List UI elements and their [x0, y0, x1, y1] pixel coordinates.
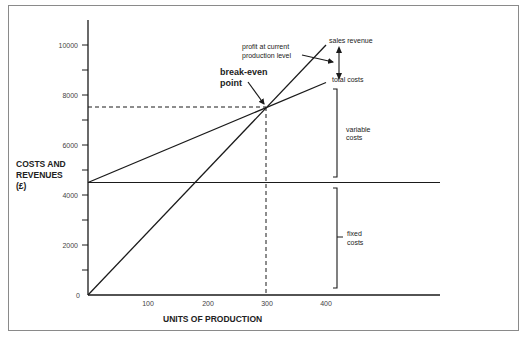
break-even-chart: 10000 8000 6000 4000 2000 0 100 200 300 … [0, 0, 525, 343]
variable-costs-label-line2: costs [346, 134, 363, 141]
y-tick-label-2000: 2000 [62, 242, 78, 249]
break-even-label-line1: break-even [220, 67, 268, 77]
y-tick-label-10000: 10000 [59, 42, 79, 49]
total-costs-line [88, 83, 326, 183]
y-tick-label-8000: 8000 [62, 92, 78, 99]
fixed-costs-label-line1: fixed [347, 230, 362, 237]
x-tick-label-100: 100 [142, 300, 154, 307]
y-tick-label-4000: 4000 [62, 192, 78, 199]
sales-revenue-line [88, 45, 326, 295]
break-even-arrow [248, 82, 264, 104]
y-axis-title-line2: REVENUES [16, 170, 63, 180]
variable-costs-bracket [333, 89, 337, 177]
profit-label-line1: profit at current [242, 43, 289, 51]
fixed-costs-label-line2: costs [347, 239, 364, 246]
y-axis-title-line3: (£) [16, 181, 27, 191]
y-tick-label-6000: 6000 [62, 142, 78, 149]
break-even-label-line2: point [220, 78, 242, 88]
x-tick-label-300: 300 [261, 300, 273, 307]
total-costs-label: total costs [332, 76, 364, 83]
fixed-costs-bracket [333, 188, 337, 288]
profit-span-arrow-top [336, 46, 342, 53]
y-ticks [82, 45, 88, 270]
x-tick-label-200: 200 [202, 300, 214, 307]
x-axis-title: UNITS OF PRODUCTION [163, 314, 262, 324]
y-axis-title-line1: COSTS AND [16, 159, 66, 169]
profit-label-line2: production level [242, 52, 291, 60]
sales-revenue-label: sales revenue [329, 37, 373, 44]
x-tick-label-400: 400 [320, 300, 332, 307]
profit-arrow [302, 55, 333, 62]
y-tick-label-0: 0 [76, 292, 80, 299]
variable-costs-label-line1: variable [346, 126, 371, 133]
